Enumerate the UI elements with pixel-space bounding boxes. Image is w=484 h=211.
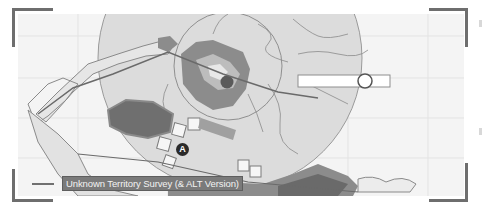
range-track <box>298 75 390 87</box>
frame-corner-bottom-right <box>429 163 468 202</box>
legend-label: Unknown Territory Survey (& ALT Version) <box>62 176 243 191</box>
map-legend: Unknown Territory Survey (& ALT Version) <box>32 176 243 191</box>
edge-indicator-middle <box>479 128 482 135</box>
route-line-icon <box>32 183 54 185</box>
edge-indicator-top <box>479 20 482 27</box>
circle-handle-icon <box>358 74 372 88</box>
waypoint-marker-icon[interactable]: A <box>176 143 189 156</box>
map-viewport[interactable]: A <box>18 14 464 196</box>
frame-corner-top-left <box>12 8 53 47</box>
map-canvas <box>18 14 464 196</box>
frame-corner-top-right <box>429 8 468 47</box>
